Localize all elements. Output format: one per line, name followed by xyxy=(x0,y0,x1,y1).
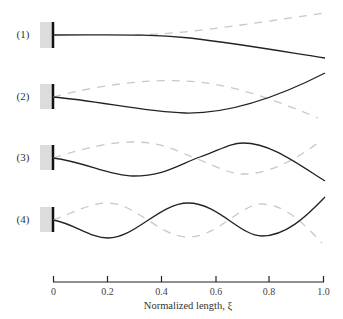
tick-label-0.4: 0.4 xyxy=(147,286,177,297)
mode-2 xyxy=(40,73,325,118)
tick-label-0.8: 0.8 xyxy=(254,286,284,297)
mode-3 xyxy=(40,140,325,181)
mode-label-4: (4) xyxy=(8,213,38,225)
mode-shape-diagram xyxy=(0,0,343,319)
tick-label-0.6: 0.6 xyxy=(201,286,231,297)
mode-4 xyxy=(40,197,325,243)
mode-1-solid-curve xyxy=(53,35,325,58)
tick-label-1.0: 1.0 xyxy=(309,286,339,297)
mode-4-dashed-curve xyxy=(53,203,322,243)
clamp-block xyxy=(40,84,53,109)
mode-2-solid-curve xyxy=(53,73,325,113)
mode-label-1: (1) xyxy=(8,28,38,40)
tick-label-0.2: 0.2 xyxy=(93,286,123,297)
mode-label-2: (2) xyxy=(8,90,38,102)
mode-3-dashed-curve xyxy=(53,140,322,174)
mode-1-dashed-curve xyxy=(135,13,325,35)
mode-3-solid-curve xyxy=(53,143,325,181)
clamp-block xyxy=(40,145,53,170)
clamp-block xyxy=(40,207,53,232)
mode-1 xyxy=(40,13,325,58)
mode-label-3: (3) xyxy=(8,151,38,163)
x-axis-title: Normalized length, ξ xyxy=(88,300,288,311)
clamp-block xyxy=(40,22,53,48)
mode-4-solid-curve xyxy=(53,197,325,238)
tick-label-0: 0 xyxy=(39,286,69,297)
x-axis xyxy=(53,276,324,282)
